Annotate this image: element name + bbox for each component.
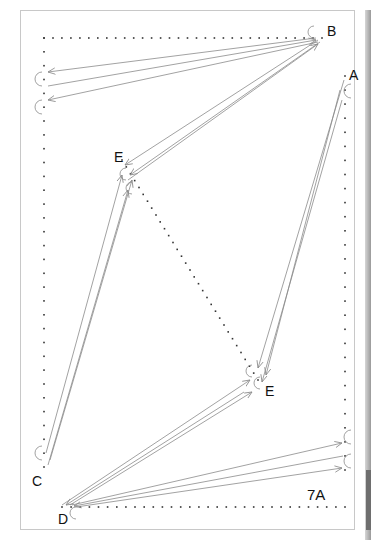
path-dot (317, 506, 319, 508)
path-dot (216, 506, 218, 508)
path-dot (43, 245, 45, 247)
path-dot (344, 258, 346, 260)
path-dot (205, 37, 207, 39)
path-dot (253, 372, 255, 374)
path-dot (262, 506, 264, 508)
path-dot (168, 235, 170, 237)
self-loop-arc (35, 72, 42, 86)
path-dot (285, 37, 287, 39)
path-dot (207, 506, 209, 508)
node-label-a: A (349, 68, 358, 82)
path-dot (155, 214, 157, 216)
path-dot (159, 221, 161, 223)
path-dot (178, 37, 180, 39)
path-dot (344, 300, 346, 302)
path-dot (299, 506, 301, 508)
path-dot (189, 506, 191, 508)
path-dot (241, 37, 243, 39)
path-dot (232, 338, 234, 340)
arrow-line (70, 392, 252, 505)
path-dot (344, 286, 346, 288)
arrow-line (62, 380, 250, 505)
path-dot (187, 37, 189, 39)
path-dot (134, 180, 136, 182)
path-dot (106, 37, 108, 39)
path-dot (169, 37, 171, 39)
path-dot (143, 506, 145, 508)
diagram-canvas: A B C D E E 7A (0, 0, 371, 547)
path-dot (43, 369, 45, 371)
path-dot (43, 162, 45, 164)
path-dot (97, 37, 99, 39)
path-dot (215, 310, 217, 312)
path-dot (43, 79, 45, 81)
path-dot (344, 329, 346, 331)
path-dot (88, 37, 90, 39)
path-dot (344, 146, 346, 148)
path-dot (43, 148, 45, 150)
path-dot (52, 37, 54, 39)
path-dot (236, 345, 238, 347)
path-dot (344, 202, 346, 204)
self-loop-arc (35, 446, 42, 460)
path-dot (43, 356, 45, 358)
path-dot (43, 231, 45, 233)
path-dot (43, 93, 45, 95)
path-dot (344, 506, 346, 508)
path-dot (198, 506, 200, 508)
path-dot (227, 331, 229, 333)
path-dot (153, 506, 155, 508)
path-dot (344, 385, 346, 387)
arrow-line (266, 90, 340, 375)
diagram-graphics (0, 0, 371, 547)
node-label-b: B (327, 24, 336, 38)
path-dot (244, 506, 246, 508)
path-dot (70, 37, 72, 39)
path-dot (185, 262, 187, 264)
path-dot (344, 103, 346, 105)
path-dot (142, 194, 144, 196)
path-dot (89, 506, 91, 508)
path-dot (43, 134, 45, 136)
path-dot (171, 506, 173, 508)
path-dot (98, 506, 100, 508)
self-loops (35, 26, 351, 519)
path-dot (344, 343, 346, 345)
path-dot (235, 506, 237, 508)
path-dot (124, 37, 126, 39)
arrow-line (50, 180, 132, 460)
arrow-line (262, 100, 342, 382)
self-loop-arc (308, 26, 314, 38)
path-dot (294, 37, 296, 39)
path-dot (151, 207, 153, 209)
path-dot (214, 37, 216, 39)
node-label-d: D (58, 512, 68, 526)
arrow-line (46, 175, 122, 453)
self-loop-arc (344, 84, 351, 98)
path-dot (43, 383, 45, 385)
path-dot (223, 324, 225, 326)
path-dot (138, 187, 140, 189)
path-dot (303, 37, 305, 39)
path-dot (326, 506, 328, 508)
path-dot (180, 506, 182, 508)
path-dot (344, 75, 346, 77)
path-dot (107, 506, 109, 508)
path-dot (344, 413, 346, 415)
path-dot (43, 65, 45, 67)
node-label-c: C (32, 474, 42, 488)
path-dot (43, 176, 45, 178)
path-dot (271, 506, 273, 508)
dotted-paths (43, 37, 346, 508)
path-dot (344, 357, 346, 359)
path-dot (43, 411, 45, 413)
path-dot (43, 106, 45, 108)
path-dot (61, 37, 63, 39)
path-dot (189, 269, 191, 271)
path-dot (125, 506, 127, 508)
path-dot (43, 189, 45, 191)
arrow-line (66, 392, 244, 505)
path-dot (43, 286, 45, 288)
node-label-e-upper: E (114, 150, 123, 164)
path-dot (344, 272, 346, 274)
